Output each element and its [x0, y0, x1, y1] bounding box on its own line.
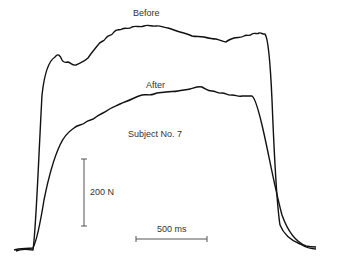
time-scale-label: 500 ms [157, 225, 187, 234]
after-label: After [146, 81, 165, 90]
before-label: Before [133, 9, 160, 18]
force-scale-bar [81, 159, 87, 226]
force-scale-label: 200 N [90, 188, 114, 197]
subject-label: Subject No. 7 [128, 130, 182, 139]
time-scale-bar [136, 236, 207, 242]
